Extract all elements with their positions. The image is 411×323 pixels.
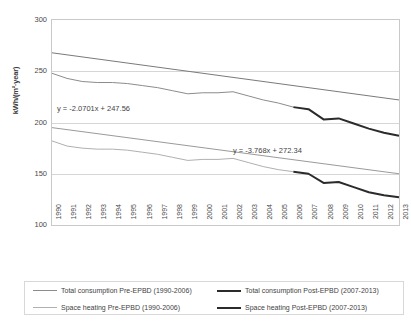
x-axis-tick-label: 2002 — [236, 204, 243, 230]
legend-row: Space heating Pre-EPBD (1990-2006) Space… — [25, 299, 403, 316]
legend-swatch-icon — [33, 307, 57, 308]
plot-area — [51, 19, 400, 226]
legend-swatch-icon — [217, 290, 241, 292]
x-axis-tick-label: 2003 — [251, 204, 258, 230]
x-axis-tick-label: 2005 — [281, 204, 288, 230]
x-axis-tick-label: 1999 — [191, 204, 198, 230]
equation-space-heating: y = -3.768x + 272.34 — [233, 146, 302, 155]
y-axis-tick-label: 250 — [19, 66, 47, 75]
x-axis-tick-label: 1991 — [70, 204, 77, 230]
x-axis-tick-label: 1995 — [130, 204, 137, 230]
x-axis-tick-label: 2010 — [357, 204, 364, 230]
y-axis-tick-label: 100 — [19, 220, 47, 229]
legend-item-total-post: Total consumption Post-EPBD (2007-2013) — [213, 287, 403, 294]
x-axis-tick-label: 2008 — [327, 204, 334, 230]
x-axis-tick-label: 2001 — [221, 204, 228, 230]
x-axis-tick-label: 2000 — [206, 204, 213, 230]
x-axis-tick-label: 1997 — [161, 204, 168, 230]
x-axis-tick-label: 2011 — [372, 204, 379, 230]
x-axis-tick-label: 1990 — [55, 204, 62, 230]
x-axis-tick-label: 2007 — [311, 204, 318, 230]
chart-container: kWh/(m²·year) 100150200250300 y = -2.070… — [0, 0, 411, 323]
x-axis-tick-label: 2013 — [402, 204, 409, 230]
legend-label: Space heating Pre-EPBD (1990-2006) — [61, 304, 180, 311]
legend-label: Total consumption Post-EPBD (2007-2013) — [245, 287, 379, 294]
legend-swatch-icon — [33, 290, 57, 291]
x-axis-tick-label: 1992 — [85, 204, 92, 230]
x-axis-tick-label: 1996 — [146, 204, 153, 230]
x-axis-tick-label: 1994 — [115, 204, 122, 230]
x-axis-tick-label: 2012 — [387, 204, 394, 230]
y-axis-tick-label: 150 — [19, 169, 47, 178]
legend-label: Space heating Post-EPBD (2007-2013) — [245, 304, 367, 311]
legend-label: Total consumption Pre-EPBD (1990-2006) — [61, 287, 192, 294]
legend-item-total-pre: Total consumption Pre-EPBD (1990-2006) — [25, 287, 213, 294]
x-axis-tick-label: 1993 — [100, 204, 107, 230]
gridline — [52, 71, 399, 72]
legend-swatch-icon — [217, 307, 241, 309]
chart-legend: Total consumption Pre-EPBD (1990-2006) T… — [24, 281, 404, 315]
gridline — [52, 174, 399, 175]
y-axis-tick-label: 200 — [19, 118, 47, 127]
x-axis-tick-label: 2009 — [342, 204, 349, 230]
x-axis-tick-label: 1998 — [176, 204, 183, 230]
legend-item-space-pre: Space heating Pre-EPBD (1990-2006) — [25, 304, 213, 311]
legend-item-space-post: Space heating Post-EPBD (2007-2013) — [213, 304, 403, 311]
y-axis-tick-label: 300 — [19, 15, 47, 24]
x-axis-tick-label: 2004 — [266, 204, 273, 230]
equation-total-consumption: y = -2.0701x + 247.56 — [57, 104, 130, 113]
x-axis-tick-label: 2006 — [296, 204, 303, 230]
legend-row: Total consumption Pre-EPBD (1990-2006) T… — [25, 282, 403, 299]
gridline — [52, 123, 399, 124]
